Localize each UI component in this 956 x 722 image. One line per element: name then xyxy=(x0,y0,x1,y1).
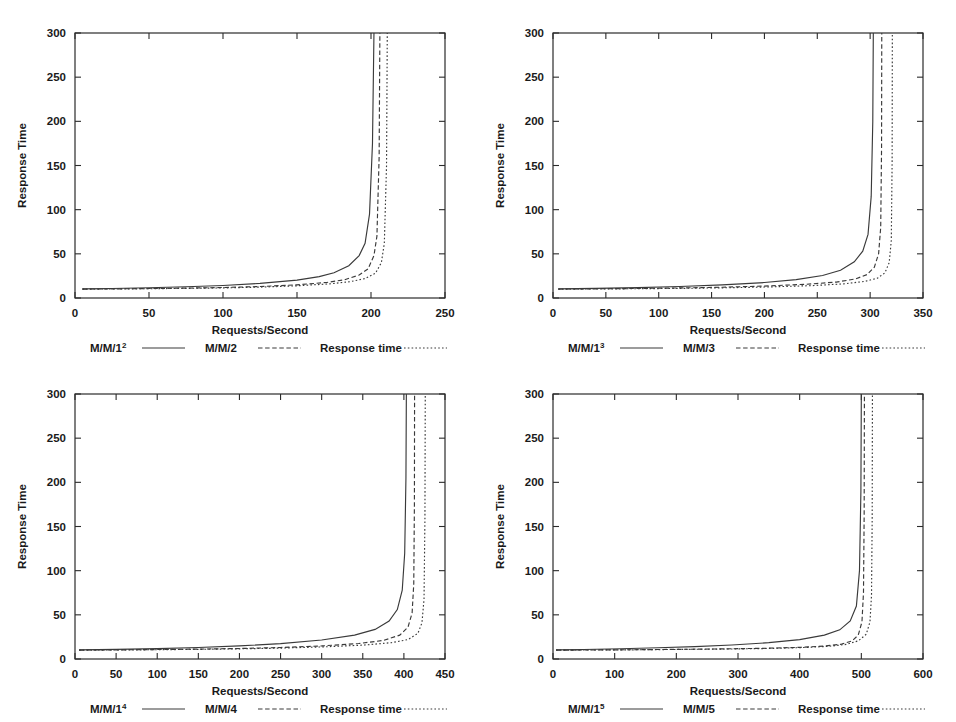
y-tick-label: 150 xyxy=(525,521,544,533)
y-tick-label: 250 xyxy=(525,71,544,83)
data-curve-1 xyxy=(558,29,873,289)
chart-panel-4: 0501001502002503000100200300400500600Req… xyxy=(478,361,956,722)
y-tick-label: 50 xyxy=(53,248,66,260)
x-tick-label: 300 xyxy=(861,307,880,319)
y-tick-label: 100 xyxy=(525,565,544,577)
data-curve-2 xyxy=(79,390,414,650)
legend-label-1: M/M/13 xyxy=(568,341,605,354)
data-curve-3 xyxy=(558,29,892,289)
curves-group xyxy=(556,390,872,650)
x-tick-label: 450 xyxy=(435,668,454,680)
x-tick-label: 100 xyxy=(213,307,232,319)
x-axis-title: Requests/Second xyxy=(690,324,787,336)
x-tick-label: 350 xyxy=(913,307,932,319)
y-tick-label: 100 xyxy=(47,565,66,577)
legend-label-1: M/M/12 xyxy=(90,341,127,354)
x-tick-label: 50 xyxy=(143,307,156,319)
y-tick-label: 150 xyxy=(525,160,544,172)
x-tick-label: 100 xyxy=(148,668,167,680)
y-tick-label: 50 xyxy=(531,248,544,260)
x-tick-label: 200 xyxy=(361,307,380,319)
y-tick-label: 0 xyxy=(60,292,66,304)
plot-area-2: 050100150200250300050100150200250300350R… xyxy=(478,0,956,361)
y-tick-label: 250 xyxy=(525,432,544,444)
legend-label-1: M/M/14 xyxy=(90,702,127,715)
x-tick-label: 250 xyxy=(435,307,454,319)
x-tick-label: 250 xyxy=(271,668,290,680)
data-curve-1 xyxy=(82,29,374,289)
y-tick-label: 100 xyxy=(525,204,544,216)
legend-label-3: Response time xyxy=(798,342,880,354)
x-tick-label: 400 xyxy=(790,668,809,680)
y-tick-label: 0 xyxy=(538,653,544,665)
y-tick-label: 200 xyxy=(47,476,66,488)
x-tick-label: 400 xyxy=(394,668,413,680)
x-tick-label: 100 xyxy=(605,668,624,680)
x-tick-label: 350 xyxy=(353,668,372,680)
curves-group xyxy=(79,390,425,650)
x-tick-label: 150 xyxy=(287,307,306,319)
x-tick-label: 0 xyxy=(72,307,78,319)
data-curve-1 xyxy=(79,390,406,650)
legend-label-2: M/M/2 xyxy=(205,342,237,354)
x-tick-label: 50 xyxy=(110,668,123,680)
x-tick-label: 250 xyxy=(808,307,827,319)
legend-label-2: M/M/5 xyxy=(683,703,716,715)
y-axis-title: Response Time xyxy=(16,484,28,569)
figure-panel-grid: 050100150200250300050100150200250Request… xyxy=(0,0,956,722)
y-tick-label: 200 xyxy=(525,476,544,488)
legend-label-2: M/M/4 xyxy=(205,703,238,715)
x-tick-label: 100 xyxy=(649,307,668,319)
chart-panel-2: 050100150200250300050100150200250300350R… xyxy=(478,0,956,361)
curves-group xyxy=(82,29,387,289)
x-tick-label: 0 xyxy=(550,307,556,319)
plot-area-1: 050100150200250300050100150200250Request… xyxy=(0,0,478,361)
y-tick-label: 150 xyxy=(47,160,66,172)
x-tick-label: 300 xyxy=(312,668,331,680)
x-tick-label: 150 xyxy=(702,307,721,319)
y-tick-label: 200 xyxy=(47,115,66,127)
x-tick-label: 300 xyxy=(728,668,747,680)
y-axis-title: Response Time xyxy=(494,123,506,208)
plot-frame xyxy=(75,33,445,298)
y-tick-label: 300 xyxy=(525,27,544,39)
y-tick-label: 150 xyxy=(47,521,66,533)
y-axis-title: Response Time xyxy=(494,484,506,569)
x-tick-label: 50 xyxy=(599,307,612,319)
y-tick-label: 300 xyxy=(525,388,544,400)
x-tick-label: 200 xyxy=(667,668,686,680)
y-tick-label: 0 xyxy=(60,653,66,665)
legend-label-3: Response time xyxy=(320,703,402,715)
x-tick-label: 0 xyxy=(550,668,556,680)
y-tick-label: 100 xyxy=(47,204,66,216)
y-tick-label: 300 xyxy=(47,388,66,400)
x-tick-label: 500 xyxy=(852,668,871,680)
y-tick-label: 250 xyxy=(47,432,66,444)
y-tick-label: 200 xyxy=(525,115,544,127)
x-tick-label: 150 xyxy=(189,668,208,680)
y-tick-label: 50 xyxy=(53,609,66,621)
legend-label-2: M/M/3 xyxy=(683,342,715,354)
data-curve-2 xyxy=(82,29,379,289)
legend-label-3: Response time xyxy=(320,342,402,354)
data-curve-2 xyxy=(558,29,881,289)
plot-frame xyxy=(553,33,923,298)
plot-frame xyxy=(553,394,923,659)
y-tick-label: 0 xyxy=(538,292,544,304)
plot-area-4: 0501001502002503000100200300400500600Req… xyxy=(478,361,956,722)
data-curve-3 xyxy=(79,390,425,650)
chart-panel-3: 0501001502002503000501001502002503003504… xyxy=(0,361,478,722)
x-tick-label: 200 xyxy=(230,668,249,680)
x-axis-title: Requests/Second xyxy=(212,324,309,336)
x-tick-label: 200 xyxy=(755,307,774,319)
data-curve-2 xyxy=(556,390,864,650)
y-tick-label: 50 xyxy=(531,609,544,621)
data-curve-1 xyxy=(556,390,861,650)
data-curve-3 xyxy=(556,390,872,650)
chart-panel-1: 050100150200250300050100150200250Request… xyxy=(0,0,478,361)
x-axis-title: Requests/Second xyxy=(212,685,309,697)
y-tick-label: 300 xyxy=(47,27,66,39)
curves-group xyxy=(558,29,892,289)
x-axis-title: Requests/Second xyxy=(690,685,787,697)
data-curve-3 xyxy=(82,29,387,289)
